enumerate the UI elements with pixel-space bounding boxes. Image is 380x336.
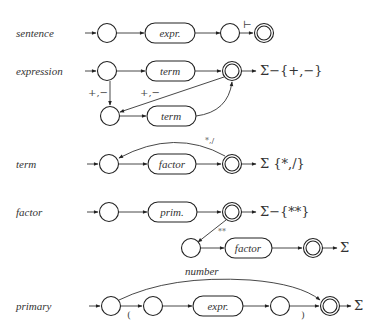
state bbox=[271, 297, 290, 316]
state-final-inner bbox=[225, 205, 239, 219]
edge-label-plus-minus: +,− bbox=[140, 87, 160, 98]
state-start bbox=[98, 62, 117, 81]
box-label: factor bbox=[235, 242, 262, 254]
edge-label-power: ** bbox=[218, 227, 226, 236]
state-final-inner bbox=[257, 26, 271, 40]
row-label-factor: factor bbox=[16, 206, 43, 218]
box-label: expr. bbox=[159, 27, 180, 39]
row-label-term: term bbox=[16, 158, 36, 170]
state-start bbox=[98, 24, 117, 43]
edge-label-plus-minus: +,− bbox=[88, 87, 108, 98]
edge-curve bbox=[196, 82, 232, 116]
row-factor: factor prim. Σ−{**} ** factor Σ bbox=[16, 202, 349, 258]
state-start bbox=[102, 297, 121, 316]
exit-label: Σ bbox=[354, 298, 363, 313]
state-final-inner bbox=[306, 241, 320, 255]
row-sentence: sentence expr. ⊢ bbox=[16, 19, 274, 43]
row-expression: expression term Σ−{+,−} +,− +,− term bbox=[16, 61, 323, 126]
edge-label-mul-div: *,/ bbox=[205, 136, 215, 145]
state-final-inner bbox=[323, 299, 337, 313]
state bbox=[221, 24, 240, 43]
edge-label-turnstile: ⊢ bbox=[243, 19, 252, 30]
state-start bbox=[100, 155, 119, 174]
state bbox=[144, 297, 163, 316]
row-label-expression: expression bbox=[16, 65, 63, 77]
syntax-diagram: sentence expr. ⊢ expression term Σ−{+,−}… bbox=[0, 0, 380, 336]
box-label: term bbox=[160, 65, 180, 77]
state bbox=[182, 239, 201, 258]
row-primary: primary ( expr. ) Σ number bbox=[15, 265, 363, 320]
box-label: prim. bbox=[159, 206, 184, 218]
row-label-primary: primary bbox=[15, 300, 52, 312]
state bbox=[101, 107, 120, 126]
box-label: term bbox=[161, 110, 181, 122]
edge-label-close-paren: ) bbox=[301, 309, 305, 320]
box-label: expr. bbox=[207, 300, 228, 312]
state-final-inner bbox=[225, 64, 239, 78]
box-label: factor bbox=[159, 158, 186, 170]
state-final-inner bbox=[225, 157, 239, 171]
exit-label: Σ−{**} bbox=[260, 204, 310, 219]
row-term: term factor Σ {*,/} *,/ bbox=[16, 136, 305, 174]
edge-label-number: number bbox=[185, 265, 219, 277]
exit-label: Σ bbox=[340, 240, 349, 255]
exit-label: Σ−{+,−} bbox=[260, 63, 323, 78]
edge-label-open-paren: ( bbox=[127, 309, 131, 320]
exit-label: Σ {*,/} bbox=[260, 156, 305, 171]
row-label-sentence: sentence bbox=[16, 27, 54, 39]
state-start bbox=[100, 203, 119, 222]
